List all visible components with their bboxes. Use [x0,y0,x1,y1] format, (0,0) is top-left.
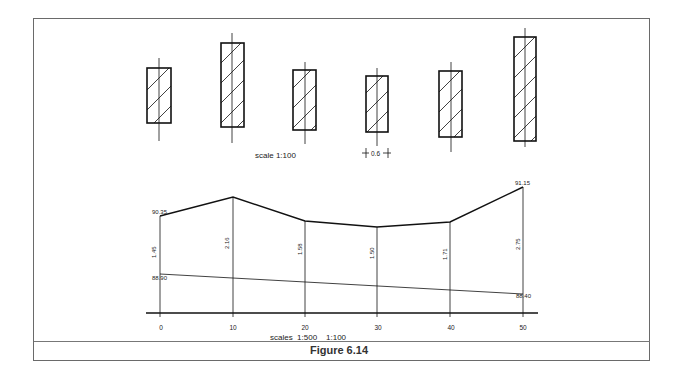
cross-section-bar-1 [147,58,171,141]
chainage-label: 20 [301,324,309,331]
datum-level-start: 88.90 [152,275,168,281]
engineering-drawing: 0.6 scale 1:100 0 10 20 30 40 50 1.45 2.… [0,0,678,385]
chainage-label: 10 [229,324,237,331]
ground-level-end: 91.15 [515,180,531,186]
chainage-label: 40 [447,324,455,331]
cross-section-bar-6 [514,28,536,152]
longitudinal-section [146,187,538,317]
depth-label: 1.45 [151,246,157,258]
depth-label: 1.71 [442,248,448,260]
depth-label: 1.58 [297,243,303,255]
cross-section-scale-label: scale 1:100 [255,151,296,160]
chainage-label: 0 [159,324,163,331]
width-dimension-label: 0.6 [371,150,380,157]
chainage-label: 30 [374,324,382,331]
cross-section-bars [147,28,536,153]
caption-divider [34,341,650,342]
depth-labels: 1.45 2.16 1.58 1.50 1.71 2.75 [151,237,521,260]
chainage-labels: 0 10 20 30 40 50 [159,324,527,331]
level-labels: 90.35 91.15 88.90 88.40 [152,180,532,299]
depth-label: 2.16 [224,237,230,249]
chainage-verticals [160,187,523,317]
datum-level-end: 88.40 [516,293,532,299]
figure-caption: Figure 6.14 [0,344,678,356]
cross-section-bar-2 [221,33,244,143]
cross-section-bar-4 [366,68,388,153]
chainage-label: 50 [519,324,527,331]
cross-section-bar-3 [293,62,316,148]
ground-level-start: 90.35 [152,209,168,215]
depth-label: 1.50 [369,247,375,259]
ground-profile-line [160,187,523,227]
depth-label: 2.75 [515,238,521,250]
datum-line [160,274,523,294]
cross-section-bar-5 [439,62,462,152]
